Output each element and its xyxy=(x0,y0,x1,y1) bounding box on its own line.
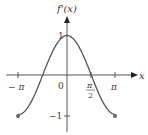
one-label: 1 xyxy=(58,31,64,41)
zero-label: 0 xyxy=(58,81,64,91)
pi-half-numerator: π xyxy=(86,81,93,90)
x-axis-arrow-icon xyxy=(131,72,138,78)
endpoint-left xyxy=(16,114,20,118)
pi-half-denominator: 2 xyxy=(88,91,93,100)
neg-pi-label: − π xyxy=(8,82,25,92)
x-axis-label: x xyxy=(139,70,145,81)
endpoint-right xyxy=(113,114,117,118)
y-axis-label: f'(x) xyxy=(56,3,77,14)
cos-graph: f'(x) x − π 0 π 2 π 1 −1 xyxy=(0,0,148,135)
pi-label: π xyxy=(110,82,118,92)
y-axis-arrow-icon xyxy=(64,16,70,23)
neg-one-label: −1 xyxy=(49,111,62,121)
